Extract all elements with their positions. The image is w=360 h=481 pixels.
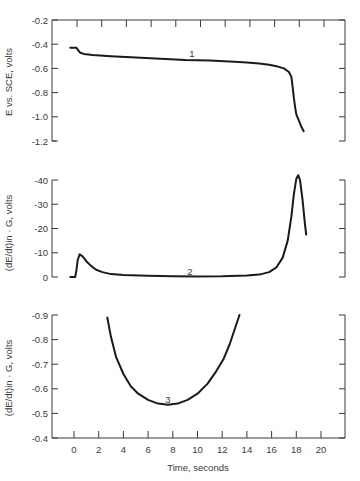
curve-2 [70,175,306,277]
panel-bottom-derivative: -0.4-0.5-0.6-0.7-0.8-0.90246810121416182… [3,310,345,474]
y-tick-label: -40 [34,175,48,186]
panel-top-potential: -0.2-0.4-0.6-0.8-1.0-1.2E vs. SCE, volts… [3,15,345,147]
curve-3 [107,315,239,405]
y-tick-label: -0.6 [32,63,48,74]
x-tick-label: 16 [266,444,277,455]
y-tick-label: -0.9 [32,310,48,321]
curve-1 [70,48,303,132]
curve-label: 3 [165,394,170,405]
y-tick-label: -20 [34,223,48,234]
x-tick-label: 6 [145,444,150,455]
x-tick-label: 4 [121,444,126,455]
y-tick-label: 0 [43,272,48,283]
y-axis-title: (dE/dt)in · G, volts [3,339,14,416]
curve-label: 1 [189,48,194,59]
y-tick-label: -30 [34,199,48,210]
x-tick-label: 14 [242,444,253,455]
y-tick-label: -0.4 [32,39,48,50]
x-tick-label: 20 [316,444,327,455]
panel-middle-derivative: 0-10-20-30-40(dE/dt)in · G, volts2 [3,175,345,283]
x-axis-title: Time, seconds [167,462,229,473]
y-tick-label: -0.5 [32,408,48,419]
y-axis-title: E vs. SCE, volts [3,48,14,116]
y-tick-label: -0.7 [32,359,48,370]
y-tick-label: -10 [34,247,48,258]
y-tick-label: -0.6 [32,383,48,394]
y-axis-title: (dE/dt)in · G, volts [3,194,14,271]
y-tick-label: -0.8 [32,87,48,98]
x-tick-label: 8 [170,444,175,455]
y-tick-label: -1.0 [32,111,48,122]
y-tick-label: -0.2 [32,15,48,26]
figure: -0.2-0.4-0.6-0.8-1.0-1.2E vs. SCE, volts… [0,0,360,481]
x-tick-label: 10 [192,444,203,455]
curve-label: 2 [187,266,192,277]
x-tick-label: 12 [217,444,228,455]
y-tick-label: -0.4 [32,433,48,444]
y-tick-label: -0.8 [32,334,48,345]
x-tick-label: 2 [96,444,101,455]
x-tick-label: 18 [291,444,302,455]
y-tick-label: -1.2 [32,136,48,147]
x-tick-label: 0 [71,444,76,455]
